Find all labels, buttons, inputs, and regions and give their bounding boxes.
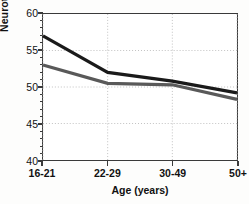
data-line-series-2 — [43, 65, 237, 99]
plot-area — [42, 13, 238, 161]
x-tick-label: 16-21 — [12, 167, 72, 179]
x-tick-major — [41, 161, 42, 166]
x-tick-label: 30-49 — [143, 167, 203, 179]
y-tick-label: 60 — [16, 8, 38, 18]
x-axis-tick-labels: 16-2122-2930-4950+ — [42, 167, 238, 181]
x-tick-major — [237, 161, 238, 166]
y-tick-label: 55 — [16, 45, 38, 55]
y-axis-title: Neuroticism score — [0, 0, 10, 32]
x-tick-label: 22-29 — [77, 167, 137, 179]
y-axis-tick-labels: 4045505560 — [14, 13, 38, 161]
y-tick-label: 50 — [16, 82, 38, 92]
y-tick-label: 40 — [16, 156, 38, 166]
x-tick-major — [172, 161, 173, 166]
x-axis-title: Age (years) — [42, 184, 238, 196]
data-series-layer — [43, 14, 237, 160]
x-tick-major — [107, 161, 108, 166]
x-axis-ticks — [42, 161, 238, 166]
y-tick-label: 45 — [16, 119, 38, 129]
chart-figure: Neuroticism score 4045505560 16-2122-293… — [0, 0, 249, 204]
x-tick-label: 50+ — [208, 167, 249, 179]
